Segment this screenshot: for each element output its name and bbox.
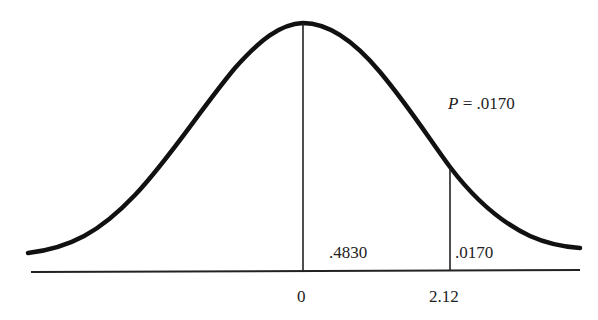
tick-label-212: 2.12 — [429, 287, 459, 306]
p-symbol: P — [447, 94, 458, 113]
p-value-annotation: P = .0170 — [447, 94, 515, 113]
normal-curve — [28, 23, 580, 253]
area-label-center: .4830 — [329, 243, 367, 262]
x-axis-line — [31, 270, 580, 272]
area-label-tail: .0170 — [455, 243, 493, 262]
normal-distribution-figure: .4830 .0170 0 2.12 P = .0170 — [0, 0, 598, 320]
p-value-text: = .0170 — [458, 94, 514, 113]
tick-label-0: 0 — [297, 287, 306, 306]
chart-canvas: .4830 .0170 0 2.12 P = .0170 — [0, 0, 598, 320]
